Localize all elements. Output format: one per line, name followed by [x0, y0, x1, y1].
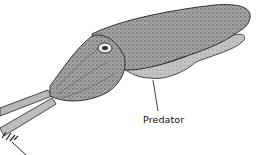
- predator-label: Predator: [143, 114, 184, 125]
- eye: [98, 43, 112, 53]
- tentacles: [0, 90, 56, 141]
- predator-leader-line: [153, 80, 158, 111]
- prey-leader-line: [12, 142, 26, 155]
- cuttlefish-illustration: [0, 0, 256, 155]
- head: [50, 35, 125, 101]
- diagram-canvas: Predator: [0, 0, 256, 155]
